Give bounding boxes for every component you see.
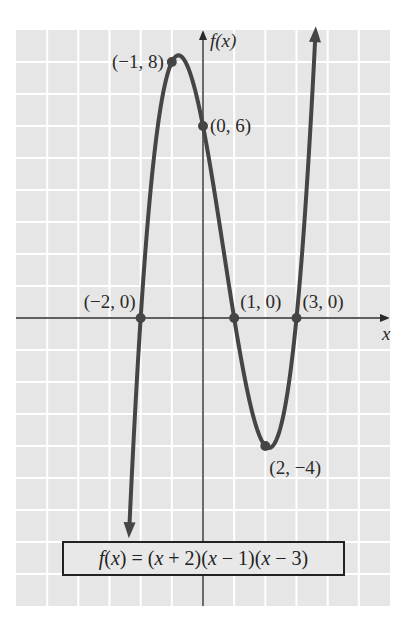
point-label: (2, −4) [269, 457, 321, 479]
formula-part: + 2)( [163, 547, 208, 569]
formula-x: x [261, 547, 270, 569]
formula-part: ( [104, 547, 111, 569]
function-graph: (−1, 8)(0, 6)(−2, 0)(1, 0)(3, 0)(2, −4) … [0, 0, 411, 633]
data-point [292, 313, 302, 323]
point-label: (3, 0) [303, 291, 344, 313]
formula-part: − 1)( [217, 547, 262, 569]
point-label: (0, 6) [210, 115, 251, 137]
formula-x: x [111, 547, 120, 569]
data-point [260, 441, 270, 451]
formula-x: x [154, 547, 163, 569]
x-axis-label: x [381, 323, 391, 344]
point-label: (−2, 0) [84, 291, 136, 313]
data-point [136, 313, 146, 323]
formula-x: x [208, 547, 217, 569]
data-point [229, 313, 239, 323]
formula-part: ) = ( [120, 547, 155, 569]
y-axis-label: f(x) [210, 30, 236, 52]
formula-box: f(x) = (x + 2)(x − 1)(x − 3) [62, 541, 345, 576]
point-label: (−1, 8) [112, 51, 164, 73]
data-point [198, 121, 208, 131]
formula-part: − 3) [270, 547, 308, 569]
point-label: (1, 0) [240, 291, 281, 313]
formula-text: f(x) = (x + 2)(x − 1)(x − 3) [99, 547, 309, 570]
data-point [167, 57, 177, 67]
